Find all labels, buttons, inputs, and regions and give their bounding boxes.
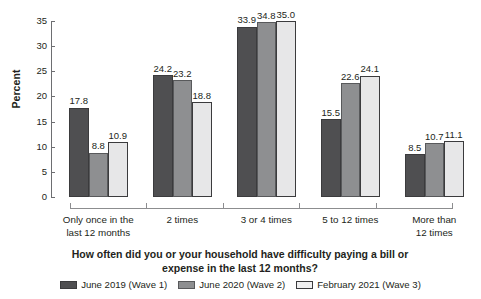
bar-value-label: 10.9	[106, 130, 130, 141]
bar[interactable]	[153, 75, 173, 197]
bar-group: 17.88.810.9	[69, 21, 128, 197]
bar-group: 33.934.835.0	[237, 21, 296, 197]
y-axis-tick-label: 35	[21, 15, 47, 26]
bar-value-label: 17.8	[67, 95, 91, 106]
bar-group: 8.510.711.1	[405, 21, 464, 197]
x-axis-end-cap	[70, 203, 71, 209]
x-axis-tick	[146, 203, 147, 209]
x-axis-category-label-line: More than	[387, 214, 481, 227]
bar[interactable]	[89, 153, 109, 197]
y-axis-tick-label: 10	[21, 141, 47, 152]
x-axis-category-label-line: last 12 months	[51, 227, 145, 240]
legend-item[interactable]: June 2020 (Wave 2)	[178, 279, 285, 290]
legend: June 2019 (Wave 1)June 2020 (Wave 2)Febr…	[0, 279, 481, 290]
bar[interactable]	[360, 76, 380, 197]
x-axis-tick	[376, 203, 377, 209]
bar-group: 15.522.624.1	[321, 21, 380, 197]
bar-value-label: 24.1	[358, 63, 382, 74]
x-axis-tick	[223, 203, 224, 209]
bar[interactable]	[444, 141, 464, 197]
y-axis-tick	[51, 197, 55, 198]
y-axis-tick-label: 15	[21, 116, 47, 127]
bar[interactable]	[425, 143, 445, 197]
y-axis-tick-label: 20	[21, 90, 47, 101]
bar[interactable]	[237, 27, 257, 197]
bar-value-label: 18.8	[190, 90, 214, 101]
legend-swatch-icon	[178, 281, 195, 289]
x-axis-tick	[299, 203, 300, 209]
bar-value-label: 11.1	[442, 129, 466, 140]
y-axis-tick-label: 5	[21, 166, 47, 177]
legend-label: June 2019 (Wave 1)	[81, 279, 167, 290]
x-axis-category-label-line: 3 or 4 times	[219, 214, 313, 227]
legend-swatch-icon	[60, 281, 77, 289]
legend-item[interactable]: February 2021 (Wave 3)	[296, 279, 421, 290]
bar[interactable]	[341, 83, 361, 197]
plot-area: 17.88.810.924.223.218.833.934.835.015.52…	[52, 21, 472, 197]
bar-group: 24.223.218.8	[153, 21, 212, 197]
bar[interactable]	[69, 108, 89, 198]
y-axis-tick-label: 30	[21, 40, 47, 51]
bar-chart: Percent 05101520253035 17.88.810.924.223…	[0, 0, 481, 299]
x-axis-category-label: 2 times	[135, 214, 229, 227]
legend-label: June 2020 (Wave 2)	[199, 279, 285, 290]
legend-label: February 2021 (Wave 3)	[317, 279, 421, 290]
bar-value-label: 15.5	[319, 107, 343, 118]
x-axis-category-label-line: Only once in the	[51, 214, 145, 227]
bar[interactable]	[276, 21, 296, 197]
legend-item[interactable]: June 2019 (Wave 1)	[60, 279, 167, 290]
x-axis-line	[70, 208, 452, 209]
x-axis-category-label-line: 2 times	[135, 214, 229, 227]
bar-value-label: 8.5	[403, 142, 427, 153]
x-axis-category-label: Only once in thelast 12 months	[51, 214, 145, 239]
bar[interactable]	[257, 22, 277, 197]
bar[interactable]	[108, 142, 128, 197]
bar-value-label: 23.2	[171, 68, 195, 79]
x-axis-category-label: More than12 times	[387, 214, 481, 239]
x-axis-title-line: How often did you or your household have…	[40, 248, 440, 262]
x-axis-title-line: expense in the last 12 months?	[40, 262, 440, 276]
y-axis-tick-label: 0	[21, 191, 47, 202]
bar[interactable]	[321, 119, 341, 197]
x-axis-category-label: 5 to 12 times	[303, 214, 397, 227]
x-axis-title: How often did you or your household have…	[40, 248, 440, 275]
bar-value-label: 8.8	[87, 140, 111, 151]
x-axis-category-label: 3 or 4 times	[219, 214, 313, 227]
bar[interactable]	[405, 154, 425, 197]
bar[interactable]	[192, 102, 212, 197]
legend-swatch-icon	[296, 281, 313, 289]
y-axis-tick-label: 25	[21, 65, 47, 76]
x-axis-end-cap	[452, 203, 453, 209]
x-axis-category-label-line: 5 to 12 times	[303, 214, 397, 227]
x-axis-category-label-line: 12 times	[387, 227, 481, 240]
bar-value-label: 35.0	[274, 9, 298, 20]
